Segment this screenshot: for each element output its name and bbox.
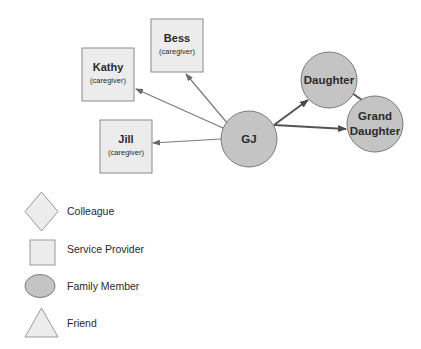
legend-item-family-member: Family Member [25,275,140,298]
edge-gj-granddaughter [274,125,346,129]
node-kathy[interactable]: Kathy (caregiver) [82,48,134,101]
node-bess[interactable]: Bess (caregiver) [151,19,203,72]
edge-gj-bess [186,74,228,124]
legend-label-family-member: Family Member [67,280,140,292]
node-bess-name: Bess [164,32,190,44]
node-daughter[interactable]: Daughter [301,52,357,108]
edge-gj-daughter [274,100,308,125]
legend-label-colleague: Colleague [67,205,114,217]
node-kathy-name: Kathy [93,61,124,73]
node-granddaughter[interactable]: Grand Daughter [347,96,403,152]
node-jill-name: Jill [118,133,133,145]
node-daughter-name: Daughter [304,74,355,86]
network-diagram: Bess (caregiver) Kathy (caregiver) Jill … [0,0,421,349]
legend-item-friend: Friend [25,308,97,337]
triangle-icon [25,308,58,337]
legend: Colleague Service Provider Family Member… [25,192,145,337]
square-icon [30,240,55,265]
node-bess-role: (caregiver) [159,47,195,56]
legend-item-colleague: Colleague [25,192,114,231]
node-jill[interactable]: Jill (caregiver) [100,120,152,173]
legend-item-service-provider: Service Provider [30,240,145,265]
node-gj[interactable]: GJ [221,111,277,167]
edge-gj-jill [153,139,221,143]
diamond-icon [25,192,58,231]
legend-label-service-provider: Service Provider [67,243,145,255]
node-kathy-role: (caregiver) [90,76,126,85]
node-granddaughter-line1: Grand [358,110,392,122]
node-gj-name: GJ [241,133,256,145]
node-granddaughter-line2: Daughter [350,125,401,137]
node-jill-role: (caregiver) [108,148,144,157]
legend-label-friend: Friend [67,317,97,329]
ellipse-icon [25,275,55,298]
